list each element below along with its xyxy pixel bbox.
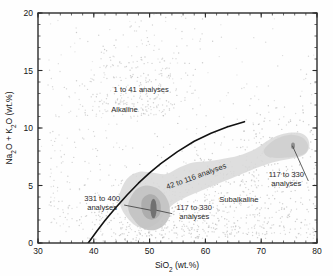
x-tick-label: 40 bbox=[89, 246, 99, 256]
annotation-a4: Subalkaline bbox=[219, 195, 258, 204]
y-tick-label: 0 bbox=[28, 238, 33, 248]
annotation-a1: 1 to 41 analyses bbox=[114, 85, 170, 94]
chart-svg: 1 to 41 analysesAlkaline42 to 116 analys… bbox=[0, 0, 333, 276]
y-tick-label: 15 bbox=[24, 66, 34, 76]
rhyolite-core bbox=[291, 143, 295, 149]
x-tick-label: 60 bbox=[201, 246, 211, 256]
annotation-a7: 117 to 330analyses bbox=[269, 170, 304, 188]
y-tick-label: 10 bbox=[24, 123, 34, 133]
y-tick-label: 20 bbox=[24, 8, 34, 18]
y-tick-label: 5 bbox=[28, 181, 33, 191]
tas-density-chart: 1 to 41 analysesAlkaline42 to 116 analys… bbox=[0, 0, 333, 276]
x-tick-label: 50 bbox=[145, 246, 155, 256]
basalt-core bbox=[150, 199, 156, 219]
x-tick-label: 70 bbox=[256, 246, 266, 256]
x-tick-label: 30 bbox=[33, 246, 43, 256]
annotation-a5: 331 to 400analyses bbox=[84, 194, 120, 212]
annotation-a6: 117 to 330analyses bbox=[177, 203, 212, 221]
x-tick-label: 80 bbox=[312, 246, 322, 256]
annotation-a2: Alkaline bbox=[111, 105, 138, 114]
